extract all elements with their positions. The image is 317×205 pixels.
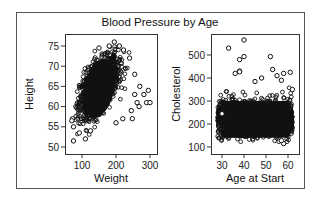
y-axis-label: Cholesterol <box>170 66 182 122</box>
data-point <box>97 46 101 50</box>
data-point <box>268 54 272 58</box>
figure: Blood Pressure by Age 505560657075100200… <box>0 0 317 205</box>
data-point <box>270 67 274 71</box>
data-point <box>112 40 116 44</box>
y-tick-label: 500 <box>188 50 205 61</box>
data-point <box>275 74 279 78</box>
y-tick-label: 300 <box>188 96 205 107</box>
data-point <box>137 104 141 108</box>
y-tick-label: 400 <box>188 73 205 84</box>
data-point <box>259 76 263 80</box>
dense-core <box>221 101 290 138</box>
x-tick-label: 30 <box>216 160 228 171</box>
data-point <box>133 72 137 76</box>
data-point <box>114 121 118 125</box>
data-point <box>107 44 111 48</box>
x-axis-label: Weight <box>94 172 128 184</box>
data-point <box>226 46 230 50</box>
y-axis-label: Height <box>23 78 35 110</box>
data-point <box>253 79 257 83</box>
x-tick-label: 50 <box>260 160 272 171</box>
data-point <box>146 88 150 92</box>
x-tick-label: 60 <box>282 160 294 171</box>
x-tick-label: 200 <box>108 160 125 171</box>
data-point <box>288 70 292 74</box>
data-point <box>71 139 75 143</box>
data-point <box>148 100 152 104</box>
data-point <box>237 70 241 74</box>
data-point <box>242 38 246 42</box>
data-point <box>129 108 133 112</box>
data-point <box>138 84 142 88</box>
y-tick-label: 100 <box>188 142 205 153</box>
data-point <box>121 48 125 52</box>
y-tick-label: 55 <box>48 121 60 132</box>
data-point <box>220 112 224 116</box>
data-point <box>279 138 283 142</box>
data-point <box>281 71 285 75</box>
x-tick-label: 300 <box>142 160 159 171</box>
data-point <box>279 78 283 82</box>
data-point <box>142 92 146 96</box>
x-tick-label: 100 <box>74 160 91 171</box>
data-point <box>133 92 137 96</box>
data-point <box>233 71 237 75</box>
y-tick-label: 65 <box>48 81 60 92</box>
data-point <box>88 129 92 133</box>
data-point <box>290 87 294 91</box>
data-point <box>77 131 81 135</box>
data-point <box>83 137 87 141</box>
y-tick-label: 50 <box>48 142 60 153</box>
y-tick-label: 75 <box>48 41 60 52</box>
data-point <box>130 117 134 121</box>
figure-title: Blood Pressure by Age <box>102 16 219 28</box>
x-axis-label: Age at Start <box>226 172 284 184</box>
y-tick-label: 70 <box>48 61 60 72</box>
y-tick-label: 200 <box>188 119 205 130</box>
x-tick-label: 40 <box>238 160 250 171</box>
data-point <box>237 57 241 61</box>
data-point <box>121 117 125 121</box>
data-point <box>70 119 74 123</box>
y-tick-label: 60 <box>48 101 60 112</box>
data-point <box>71 125 75 129</box>
data-point <box>242 54 246 58</box>
data-point <box>117 44 121 48</box>
data-point <box>127 56 131 60</box>
